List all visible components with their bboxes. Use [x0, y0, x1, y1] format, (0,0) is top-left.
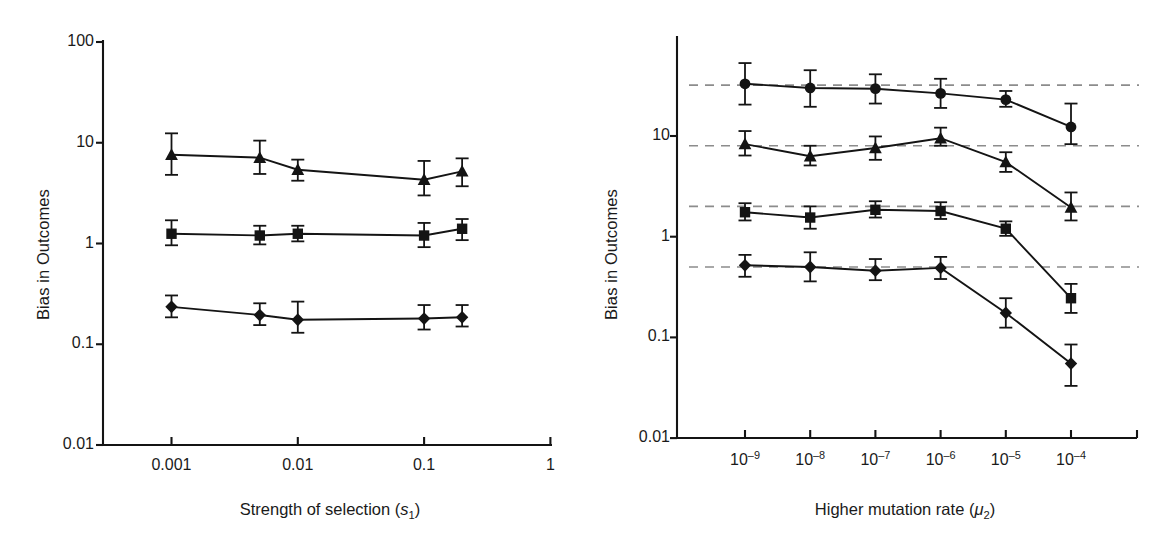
x-axis-label-right-suffix: )	[990, 500, 996, 518]
chart-panel-right: Bias in Outcomes Higher mutation rate (μ…	[580, 0, 1165, 546]
data-point-triangle-4	[456, 165, 469, 177]
data-point-circle-2	[870, 83, 881, 94]
data-point-triangle-0	[739, 138, 752, 150]
y-tick-label-left-3: 10	[24, 133, 94, 151]
data-point-diamond-1	[254, 309, 266, 322]
series-line-circle-series	[745, 84, 1071, 127]
y-tick-label-right-0: 0.01	[598, 428, 670, 446]
data-point-diamond-4	[456, 311, 468, 324]
series-circle-series-right	[739, 63, 1078, 144]
series-diamond-series-left	[165, 295, 469, 332]
axis-group-right	[670, 36, 1137, 438]
data-point-square-0	[740, 207, 750, 217]
y-tick-label-left-4: 100	[24, 32, 94, 50]
y-axis-label-right: Bias in Outcomes	[602, 189, 621, 320]
data-point-square-3	[935, 206, 945, 216]
data-point-diamond-0	[165, 300, 177, 313]
series-line-square-series	[172, 229, 463, 236]
data-point-triangle-3	[934, 132, 947, 144]
x-axis-label-left-prefix: Strength of selection (	[240, 500, 401, 518]
data-point-square-0	[166, 229, 176, 239]
x-tick-label-left-1: 0.01	[253, 456, 343, 474]
series-line-diamond-series	[745, 265, 1071, 363]
y-tick-label-right-2: 1	[598, 227, 670, 245]
data-point-diamond-1	[804, 261, 816, 274]
series-square-series-left	[165, 219, 469, 247]
y-tick-label-left-1: 0.1	[24, 334, 94, 352]
series-line-square-series	[745, 210, 1071, 298]
data-point-diamond-3	[418, 312, 430, 325]
x-tick-label-left-2: 0.1	[379, 456, 469, 474]
data-point-square-4	[1001, 224, 1011, 234]
data-point-circle-1	[805, 83, 816, 94]
x-axis-label-left-suffix: )	[415, 500, 421, 518]
y-tick-label-left-0: 0.01	[24, 435, 94, 453]
y-tick-label-right-3: 10	[598, 126, 670, 144]
x-axis-label-right: Higher mutation rate (μ2)	[670, 500, 1140, 521]
chart-panel-left: Bias in Outcomes Strength of selection (…	[0, 0, 580, 546]
data-point-circle-5	[1066, 122, 1077, 133]
data-point-diamond-0	[739, 259, 751, 272]
axis-group-left	[96, 40, 552, 445]
series-diamond-series-right	[739, 252, 1078, 386]
data-point-diamond-3	[934, 261, 946, 274]
series-line-triangle-series	[172, 155, 463, 180]
series-line-triangle-series	[745, 138, 1071, 207]
data-point-square-2	[293, 229, 303, 239]
x-axis-label-right-prefix: Higher mutation rate (	[815, 500, 975, 518]
data-point-circle-3	[935, 88, 946, 99]
x-tick-label-left-0: 0.001	[127, 456, 217, 474]
y-tick-label-left-2: 1	[24, 234, 94, 252]
x-axis-label-left-var: s	[400, 500, 408, 518]
x-tick-label-right-5: 10–4	[1031, 449, 1111, 469]
data-point-circle-4	[1000, 94, 1011, 105]
data-point-square-3	[419, 230, 429, 240]
y-axis-label-left: Bias in Outcomes	[34, 189, 53, 320]
figure-root: Bias in Outcomes Strength of selection (…	[0, 0, 1165, 546]
data-point-square-4	[457, 224, 467, 234]
data-point-square-2	[870, 205, 880, 215]
y-tick-label-right-1: 0.1	[598, 327, 670, 345]
data-point-circle-0	[740, 78, 751, 89]
x-axis-label-left: Strength of selection (s1)	[100, 500, 560, 521]
series-line-diamond-series	[172, 307, 463, 320]
series-triangle-series-left	[165, 133, 469, 195]
data-point-square-1	[255, 230, 265, 240]
data-point-diamond-2	[292, 313, 304, 326]
data-point-square-5	[1066, 293, 1076, 303]
data-point-square-1	[805, 212, 815, 222]
series-square-series-right	[739, 201, 1078, 313]
